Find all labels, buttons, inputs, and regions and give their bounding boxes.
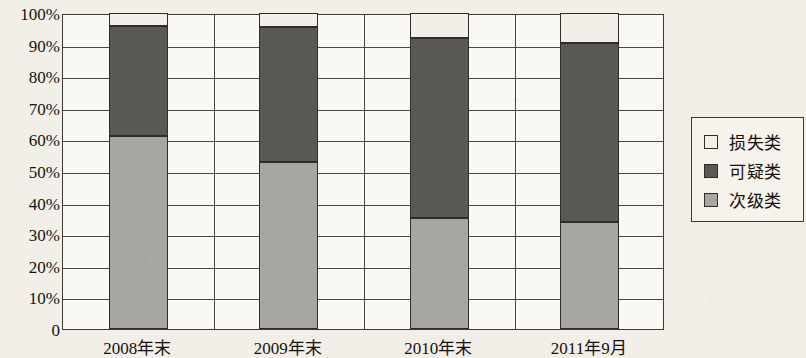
plot-area [62,14,664,330]
bar-segment [410,218,469,329]
y-axis-tick-label: 40% [4,195,60,212]
bar-stack [259,13,318,329]
y-axis-tick-label: 60% [4,132,60,149]
y-axis-tick-label: 0 [4,322,60,339]
bar-segment [560,222,619,329]
bar-segment [109,136,168,329]
legend-item-label: 损失类 [729,129,782,154]
legend: 损失类可疑类次级类 [691,117,804,222]
y-axis-tick-label: 20% [4,258,60,275]
y-axis-tick-label: 30% [4,227,60,244]
y-axis-tick-label: 10% [4,290,60,307]
x-axis-tick-label: 2010年末 [404,334,472,358]
legend-item: 损失类 [704,127,803,156]
bar-segment [109,13,168,26]
bar-segment [259,162,318,329]
legend-swatch-icon [704,135,718,149]
y-axis-tick-label: 70% [4,100,60,117]
bar-segment [410,13,469,38]
bar-segment [259,13,318,27]
gridline-vertical [364,15,365,329]
legend-item-label: 次级类 [729,187,782,212]
y-axis-tick-label: 90% [4,37,60,54]
gridline-vertical [515,15,516,329]
x-axis-tick-label: 2008年末 [103,334,171,358]
y-axis-tick-label: 100% [4,6,60,23]
y-axis-tick-label: 50% [4,164,60,181]
legend-item: 次级类 [704,185,803,214]
bar-segment [259,27,318,161]
x-axis: 2008年末2009年末2010年末2011年9月 [62,334,664,358]
y-axis: 010%20%30%40%50%60%70%80%90%100% [0,0,60,358]
bar-segment [109,26,168,137]
x-axis-tick-label: 2009年末 [254,334,322,358]
legend-item-label: 可疑类 [729,158,782,183]
gridline-vertical [214,15,215,329]
stacked-bar-chart: 010%20%30%40%50%60%70%80%90%100% 2008年末2… [0,0,806,358]
bar-stack [410,13,469,329]
legend-item: 可疑类 [704,156,803,185]
bar-segment [560,43,619,222]
legend-swatch-icon [704,193,718,207]
legend-swatch-icon [704,164,718,178]
bar-segment [410,38,469,218]
bar-stack [560,13,619,329]
x-axis-tick-label: 2011年9月 [551,334,627,358]
bar-segment [560,13,619,43]
bar-stack [109,13,168,329]
y-axis-tick-label: 80% [4,69,60,86]
